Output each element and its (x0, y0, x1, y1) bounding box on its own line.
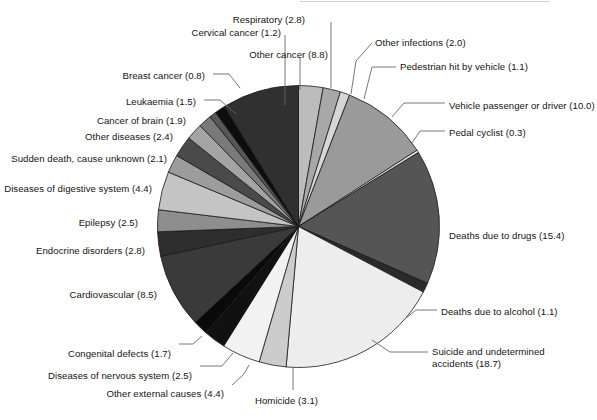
label-congenital-defects: Congenital defects (1.7) (0, 348, 171, 360)
label-other-infections: Other infections (2.0) (375, 37, 466, 49)
label-deaths-due-to-drugs: Deaths due to drugs (15.4) (449, 230, 564, 242)
leader-line-other-external (232, 365, 249, 385)
pie-slices-group (157, 86, 439, 368)
label-leukaemia: Leukaemia (1.5) (0, 96, 196, 108)
label-pedestrian-hit-by-vehicle: Pedestrian hit by vehicle (1.1) (400, 61, 528, 73)
label-cancer-of-brain: Cancer of brain (1.9) (0, 115, 186, 127)
label-pedal-cyclist: Pedal cyclist (0.3) (449, 127, 526, 139)
leader-line-other-infections (351, 43, 372, 94)
label-cardiovascular: Cardiovascular (8.5) (0, 289, 157, 301)
label-vehicle-passenger: Vehicle passenger or driver (10.0) (449, 100, 595, 112)
label-diseases-of-digestive-system: Diseases of digestive system (4.4) (0, 183, 152, 195)
leader-line-congenital (179, 336, 202, 344)
label-endocrine-disorders: Endocrine disorders (2.8) (0, 245, 145, 257)
label-other-external-causes: Other external causes (4.4) (0, 388, 224, 400)
leader-line-pedestrian (364, 67, 396, 99)
label-breast-cancer: Breast cancer (0.8) (0, 70, 205, 82)
pie-chart-figure: Respiratory (2.8) Other infections (2.0)… (0, 0, 597, 420)
leader-line-breast-cancer (213, 74, 240, 88)
label-homicide: Homicide (3.1) (255, 395, 318, 407)
label-suicide-line1: Suicide and undetermined (432, 346, 545, 358)
label-respiratory: Respiratory (2.8) (0, 14, 305, 26)
label-deaths-due-to-alcohol: Deaths due to alcohol (1.1) (441, 306, 558, 318)
leader-line-nervous-system (200, 353, 233, 366)
leader-line-vehicle-passenger (392, 103, 445, 117)
label-diseases-of-nervous-system: Diseases of nervous system (2.5) (0, 370, 192, 382)
label-epilepsy: Epilepsy (2.5) (0, 217, 138, 229)
label-cervical-cancer: Cervical cancer (1.2) (0, 27, 281, 39)
label-other-diseases: Other diseases (2.4) (0, 131, 173, 143)
leader-line-pedal-cyclist (412, 131, 445, 143)
label-suicide-line2: accidents (18.7) (432, 358, 501, 370)
label-other-cancer: Other cancer (8.8) (0, 49, 328, 61)
label-sudden-death: Sudden death, cause unknown (2.1) (0, 153, 167, 165)
